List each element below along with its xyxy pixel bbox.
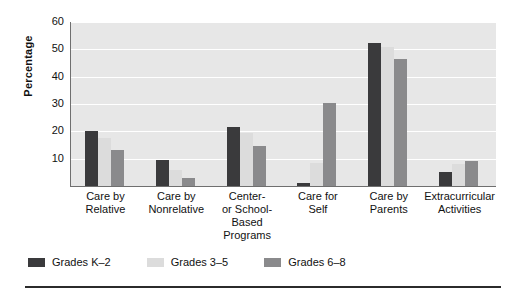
x-category-label-line: Programs xyxy=(204,229,290,242)
x-category-label: ExtracurricularActivities xyxy=(417,190,503,216)
bar-chart-figure: Percentage 102030405060 Care byRelativeC… xyxy=(0,0,521,294)
legend-swatch xyxy=(147,258,164,267)
x-axis-category-labels: Care byRelativeCare byNonrelativeCenter-… xyxy=(70,190,495,252)
y-tick-label: 60 xyxy=(38,16,64,27)
bar xyxy=(297,183,310,186)
legend-swatch xyxy=(264,258,281,267)
bar xyxy=(227,127,240,186)
legend-item: Grades K–2 xyxy=(28,256,111,268)
bar-group xyxy=(85,22,124,186)
legend-swatch xyxy=(28,258,45,267)
bar xyxy=(85,131,98,186)
bar xyxy=(169,170,182,186)
bar xyxy=(439,172,452,186)
legend-item: Grades 6–8 xyxy=(264,256,345,268)
bar xyxy=(253,146,266,186)
legend: Grades K–2Grades 3–5Grades 6–8 xyxy=(28,256,382,268)
bar-group xyxy=(439,22,478,186)
bottom-divider-rule xyxy=(25,286,501,288)
bar-group xyxy=(368,22,407,186)
bar xyxy=(310,163,323,186)
legend-label: Grades 3–5 xyxy=(171,256,228,268)
bar xyxy=(381,47,394,186)
legend-label: Grades K–2 xyxy=(52,256,111,268)
bar xyxy=(465,161,478,186)
y-axis-title: Percentage xyxy=(22,6,34,126)
bar-group xyxy=(156,22,195,186)
bar xyxy=(156,160,169,186)
y-tick-label: 50 xyxy=(38,43,64,54)
x-category-label-line: Based xyxy=(204,216,290,229)
bar xyxy=(323,103,336,186)
bar-series-container xyxy=(71,22,496,186)
bar-group xyxy=(297,22,336,186)
legend-label: Grades 6–8 xyxy=(288,256,345,268)
bar xyxy=(368,43,381,187)
y-tick-label: 10 xyxy=(38,153,64,164)
bar xyxy=(111,150,124,186)
bar xyxy=(182,178,195,186)
x-category-label-line: Activities xyxy=(417,203,503,216)
bar xyxy=(452,164,465,186)
y-tick-label: 20 xyxy=(38,125,64,136)
bar xyxy=(240,133,253,186)
legend-item: Grades 3–5 xyxy=(147,256,228,268)
x-category-label-line: Extracurricular xyxy=(417,190,503,203)
plot-area xyxy=(70,22,496,187)
bar xyxy=(394,59,407,186)
bar xyxy=(98,138,111,186)
bar-group xyxy=(227,22,266,186)
y-tick-label: 30 xyxy=(38,98,64,109)
y-tick-label: 40 xyxy=(38,71,64,82)
